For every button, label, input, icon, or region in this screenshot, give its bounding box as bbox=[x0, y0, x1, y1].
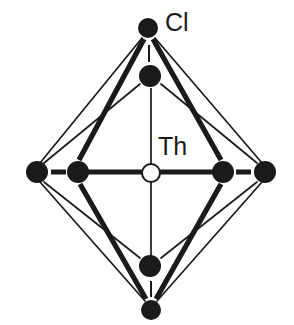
atom-cl-inner-left[interactable] bbox=[67, 161, 89, 183]
molecular-structure-figure: Cl Th bbox=[0, 0, 294, 325]
atom-cl-far-right[interactable] bbox=[254, 161, 276, 183]
atom-cl-lower-inner[interactable] bbox=[139, 255, 161, 277]
atom-cl-far-left[interactable] bbox=[26, 161, 48, 183]
atom-th-center[interactable] bbox=[142, 164, 160, 182]
atom-cl-inner-right[interactable] bbox=[212, 161, 234, 183]
label-th: Th bbox=[158, 132, 187, 160]
coordination-polyhedron-svg: Cl Th bbox=[0, 0, 294, 325]
label-cl: Cl bbox=[165, 8, 189, 36]
atom-cl-apex-bottom[interactable] bbox=[141, 300, 161, 320]
atom-cl-apex-top[interactable] bbox=[138, 18, 158, 38]
atom-cl-upper-inner[interactable] bbox=[139, 65, 161, 87]
